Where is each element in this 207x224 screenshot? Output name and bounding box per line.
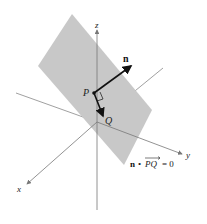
equation: n • PQ = 0 [130,157,174,170]
point-Q-label: Q [105,115,113,126]
point-P-label: P [82,87,89,98]
normal-label: n [123,53,129,64]
plane-normal-diagram: z y x P Q n n • PQ = 0 [0,0,207,224]
x-axis-label: x [16,184,21,194]
svg-text:= 0: = 0 [162,159,174,169]
x-axis [27,122,97,184]
svg-text:n: n [130,159,135,169]
svg-text:•: • [138,159,141,169]
z-axis-label: z [94,20,99,30]
plane [38,14,152,165]
point-P [92,91,96,95]
svg-text:PQ: PQ [144,159,157,169]
y-axis-label: y [185,150,190,160]
